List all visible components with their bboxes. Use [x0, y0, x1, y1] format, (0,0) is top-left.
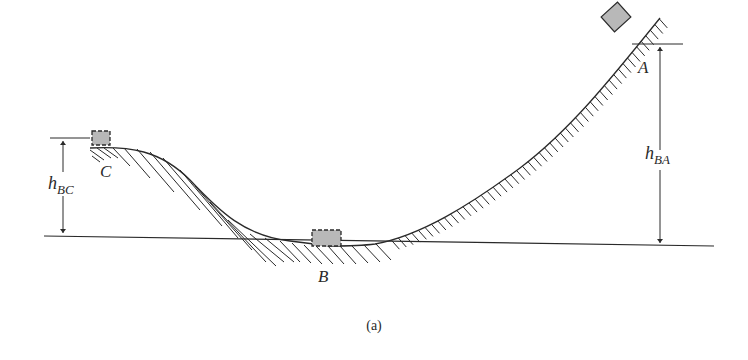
- track-curve: [90, 18, 660, 246]
- reference-ground-line: [44, 236, 714, 246]
- h-BC-label: hBC: [48, 173, 74, 197]
- block-at-B: [312, 230, 341, 246]
- track-hatching-right: [391, 19, 667, 249]
- block-at-A: [601, 2, 631, 32]
- h-BA-label: hBA: [645, 143, 670, 167]
- track-diagram: hBA hBC A C B (a): [0, 0, 748, 360]
- figure-caption: (a): [366, 318, 382, 334]
- block-at-C: [92, 131, 110, 145]
- point-label-C: C: [100, 162, 112, 181]
- point-label-B: B: [318, 267, 329, 286]
- track-hatching-left: [90, 148, 294, 266]
- point-label-A: A: [637, 58, 649, 77]
